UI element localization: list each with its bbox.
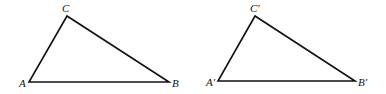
vertex-label-c-prime: C′: [250, 2, 260, 14]
vertex-label-a-prime: A′: [205, 76, 216, 88]
diagram-svg: A B C A′ B′ C′: [0, 0, 386, 94]
triangle-a-prime-b-prime-c-prime: [218, 16, 355, 81]
vertex-label-b-prime: B′: [358, 76, 368, 88]
congruent-triangles-diagram: A B C A′ B′ C′: [0, 0, 386, 94]
vertex-label-b: B: [172, 77, 179, 89]
vertex-label-c: C: [62, 2, 70, 14]
vertex-label-a: A: [18, 77, 26, 89]
triangle-abc: [29, 16, 169, 82]
